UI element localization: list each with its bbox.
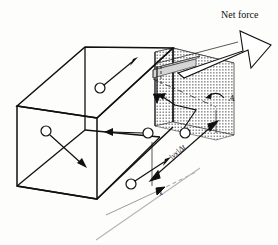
molecule-m1	[95, 57, 138, 93]
molecule-circle	[95, 83, 105, 93]
velocity-head-m3	[104, 128, 113, 136]
molecule-circle	[143, 128, 153, 138]
net-force-label: Net force	[221, 9, 259, 20]
box-bottom-left-edge	[17, 186, 97, 199]
molecule-m3	[104, 128, 153, 138]
molecule-m2	[41, 126, 87, 168]
molecule-circle	[180, 128, 190, 138]
area-label: A	[228, 93, 235, 103]
box-back-edges	[97, 52, 160, 199]
velocity-shaft-m2	[50, 135, 81, 163]
back-bottom-diagonal	[97, 137, 160, 199]
dim-x-shaft	[106, 190, 160, 215]
box-top-face	[17, 47, 173, 118]
molecule-circle	[41, 126, 51, 136]
axis-guide-line	[96, 168, 200, 240]
dim-slab-head-left	[150, 171, 160, 181]
figure-canvas: Net force A |vx|Δt x	[0, 0, 278, 245]
molecule-m4	[126, 157, 171, 189]
slab-thickness-label: |vx|Δt	[167, 142, 187, 161]
velocity-head-m1	[130, 57, 138, 66]
molecule-circle	[126, 179, 136, 189]
velocity-head-m2	[77, 158, 87, 168]
velocity-shaft-m1	[104, 62, 132, 85]
container-box	[17, 47, 173, 199]
kinetic-theory-figure: Net force A |vx|Δt x	[0, 0, 278, 245]
